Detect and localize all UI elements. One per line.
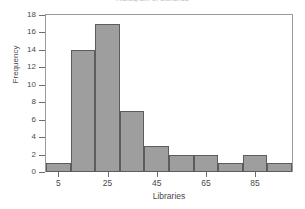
x-tick-mark: [255, 172, 256, 177]
x-tick-mark: [108, 172, 109, 177]
y-tick-mark: [39, 155, 45, 156]
y-tick-mark: [39, 32, 45, 33]
y-tick-label: 14: [0, 46, 36, 54]
histogram-bar: [243, 155, 268, 172]
y-tick-label: 4: [0, 133, 36, 141]
x-tick-label: 25: [93, 179, 123, 188]
x-tick-mark: [206, 172, 207, 177]
histogram-bar: [194, 155, 219, 172]
y-tick-mark: [39, 67, 45, 68]
x-axis-label: Libraries: [45, 191, 293, 201]
histogram-bar: [169, 155, 194, 172]
histogram-bar: [46, 163, 71, 172]
chart-title: Histogram of Libraries: [0, 0, 305, 2]
y-tick-label: 12: [0, 63, 36, 71]
x-tick-mark: [58, 172, 59, 177]
y-tick-label: 8: [0, 98, 36, 106]
histogram-bar: [71, 50, 96, 172]
histogram-figure: Histogram of Libraries Frequency 0246810…: [0, 0, 305, 209]
histogram-bar: [95, 24, 120, 172]
y-tick-mark: [39, 102, 45, 103]
y-tick-mark: [39, 50, 45, 51]
y-tick-label: 10: [0, 81, 36, 89]
histogram-bar: [144, 146, 169, 172]
y-tick-mark: [39, 137, 45, 138]
x-tick-label: 5: [43, 179, 73, 188]
y-tick-mark: [39, 120, 45, 121]
y-tick-label: 6: [0, 116, 36, 124]
y-tick-label: 2: [0, 151, 36, 159]
bar-series: [46, 15, 292, 172]
histogram-bar: [120, 111, 145, 172]
y-tick-mark: [39, 85, 45, 86]
histogram-bar: [267, 163, 292, 172]
histogram-bar: [218, 163, 243, 172]
y-tick-label: 0: [0, 168, 36, 176]
x-tick-label: 65: [191, 179, 221, 188]
y-tick-mark: [39, 15, 45, 16]
y-tick-mark: [39, 172, 45, 173]
y-tick-label: 16: [0, 28, 36, 36]
x-tick-mark: [157, 172, 158, 177]
x-tick-label: 45: [142, 179, 172, 188]
y-tick-label: 18: [0, 11, 36, 19]
x-tick-label: 85: [240, 179, 270, 188]
